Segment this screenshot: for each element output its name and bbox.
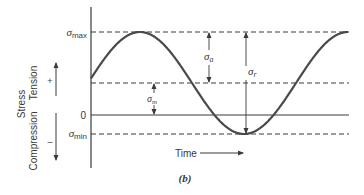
- zero-label: 0: [80, 110, 86, 121]
- compression-label: Compression: [28, 112, 39, 171]
- tension-label: Tension: [28, 66, 39, 100]
- figure-caption: (b): [179, 172, 192, 185]
- stress-time-diagram: σmax 0 σmin σa σr σm Stress Tension Comp…: [0, 0, 364, 195]
- sigma-a-label: σa: [204, 50, 213, 64]
- tension-sign: +: [47, 76, 52, 86]
- sigma-r-label: σr: [248, 65, 257, 79]
- sigma-m-label: σm: [147, 93, 157, 106]
- sigma-min-label: σmin: [69, 127, 87, 141]
- compression-sign: –: [47, 137, 52, 147]
- stress-axis-label: Stress: [16, 90, 27, 118]
- sigma-max-label: σmax: [66, 26, 87, 40]
- time-axis-label: Time: [175, 148, 197, 159]
